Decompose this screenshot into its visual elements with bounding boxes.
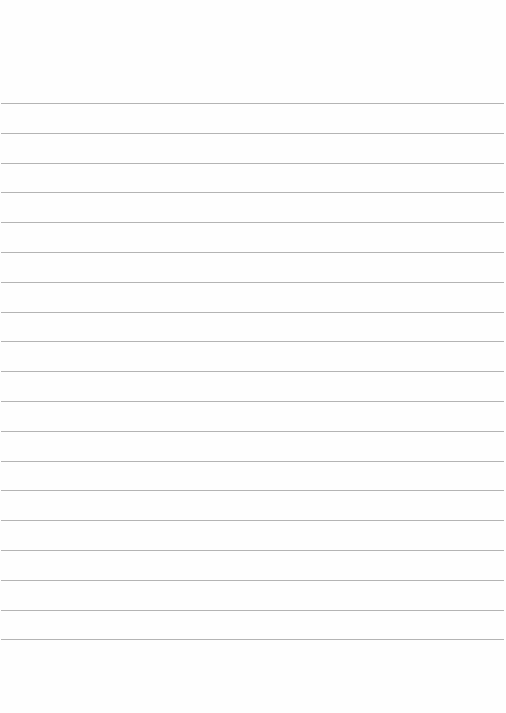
ruled-line [1,580,504,581]
ruled-line [1,490,504,491]
ruled-line [1,461,504,462]
ruled-line [1,312,504,313]
ruled-line [1,341,504,342]
ruled-line [1,103,504,104]
ruled-line [1,282,504,283]
ruled-line [1,252,504,253]
ruled-line [1,520,504,521]
ruled-line [1,431,504,432]
ruled-line [1,610,504,611]
ruled-line [1,192,504,193]
ruled-line [1,163,504,164]
ruled-line [1,550,504,551]
lined-paper-page [0,0,506,713]
ruled-line [1,639,504,640]
ruled-line [1,401,504,402]
ruled-line [1,371,504,372]
ruled-line [1,133,504,134]
ruled-line [1,222,504,223]
